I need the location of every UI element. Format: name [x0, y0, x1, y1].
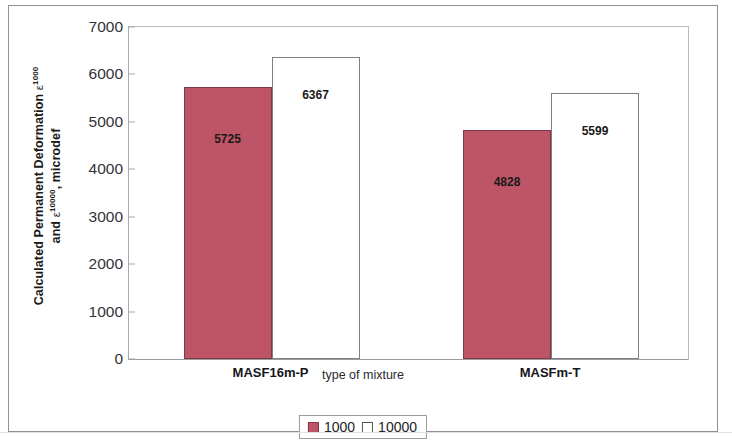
y-axis-tick-mark	[129, 27, 135, 28]
bar-value-label: 5599	[582, 124, 609, 138]
y-axis-tick-label: 5000	[89, 113, 129, 131]
epsilon-symbol-2: ε	[50, 212, 62, 217]
bar-1000-MASFm-T[interactable]: 4828	[463, 130, 551, 359]
y-axis-tick-label: 6000	[89, 65, 129, 83]
y-axis-tick: 4000	[89, 160, 129, 178]
y-axis-tick-mark	[129, 311, 135, 312]
y-axis-tick: 6000	[89, 65, 129, 83]
x-axis-title: type of mixture	[322, 368, 404, 382]
y-axis-tick-label: 4000	[89, 160, 129, 178]
y-axis-tick-mark	[129, 169, 135, 170]
bar-value-label: 5725	[214, 132, 241, 146]
y-axis-tick-mark	[129, 264, 135, 265]
y-axis-tick: 7000	[89, 18, 129, 36]
white-square-swatch	[362, 422, 373, 433]
red-square-swatch	[308, 422, 319, 433]
page-bottom-rule	[0, 432, 732, 433]
y-axis-tick-label: 0	[114, 350, 129, 368]
plot-area: 01000200030004000500060007000 5725636748…	[128, 26, 689, 360]
x-axis-category-label-1: MASFm-T	[520, 365, 581, 380]
bar-10000-MASF16m-P[interactable]: 6367	[272, 57, 360, 359]
y-axis-title-superscript-1: 1000	[31, 67, 40, 85]
y-axis-tick-label: 2000	[89, 255, 129, 273]
y-axis-tick: 3000	[89, 208, 129, 226]
y-axis-tick-mark	[129, 216, 135, 217]
y-axis-tick-label: 3000	[89, 208, 129, 226]
y-axis-title-line-1-text: Calculated Permanent Deformation	[33, 90, 47, 305]
bar-10000-MASFm-T[interactable]: 5599	[551, 93, 639, 359]
y-axis-title-superscript-2: 10000	[48, 189, 57, 212]
y-axis-title-line-2-suffix: , microdef	[49, 129, 63, 190]
bar-value-label: 6367	[302, 88, 329, 102]
x-axis-category-label-0: MASF16m-P	[233, 365, 309, 380]
y-axis-tick-mark	[129, 74, 135, 75]
y-axis-title-line-2: and ε10000, microdef	[48, 129, 63, 244]
y-axis-tick: 5000	[89, 113, 129, 131]
y-axis-tick-label: 7000	[89, 18, 129, 36]
y-axis-title-line-2-prefix: and	[49, 217, 63, 243]
chart-figure-frame: Calculated Permanent Deformation ε1000 a…	[8, 5, 718, 432]
y-axis-tick-label: 1000	[89, 303, 129, 321]
y-axis-tick: 0	[114, 350, 129, 368]
y-axis-title-line-1: Calculated Permanent Deformation ε1000	[31, 67, 46, 306]
y-axis-tick: 2000	[89, 255, 129, 273]
y-axis-tick: 1000	[89, 303, 129, 321]
chart-legend: 100010000	[299, 415, 427, 439]
bar-1000-MASF16m-P[interactable]: 5725	[184, 87, 272, 359]
y-axis-tick-mark	[129, 121, 135, 122]
y-axis-title: Calculated Permanent Deformation ε1000 a…	[27, 6, 67, 366]
epsilon-symbol-1: ε	[34, 85, 46, 90]
y-axis-tick-mark	[129, 359, 135, 360]
bar-value-label: 4828	[494, 175, 521, 189]
